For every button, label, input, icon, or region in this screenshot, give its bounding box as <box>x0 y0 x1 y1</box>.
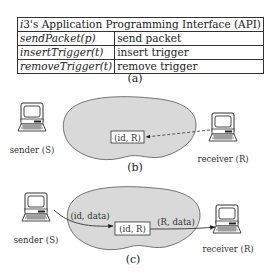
sender-label: sender (S) <box>14 235 59 245</box>
sender-packet-label: (id, data) <box>70 211 109 221</box>
internet-cloud <box>63 97 196 160</box>
sender-computer-icon <box>18 103 46 131</box>
trigger-box-label: (id, R) <box>119 224 146 234</box>
caption-c: (c) <box>118 253 148 266</box>
receiver-label: receiver (R) <box>202 244 253 254</box>
forwarded-packet-label: (R, data) <box>157 217 194 227</box>
sender-computer-icon <box>22 193 50 221</box>
trigger-box-label: (id, R) <box>114 133 141 143</box>
receiver-label: receiver (R) <box>197 154 248 164</box>
panel-c: (id, R) (id, data) (R, data) sender (S) … <box>14 187 254 254</box>
diagram-canvas: (id, R) sender (S) receiver (R) (id, R) … <box>0 0 267 278</box>
panel-b: (id, R) sender (S) receiver (R) <box>10 97 249 164</box>
receiver-computer-icon <box>209 113 237 141</box>
receiver-computer-icon <box>213 205 241 233</box>
caption-b: (b) <box>120 161 150 174</box>
sender-label: sender (S) <box>10 145 55 155</box>
